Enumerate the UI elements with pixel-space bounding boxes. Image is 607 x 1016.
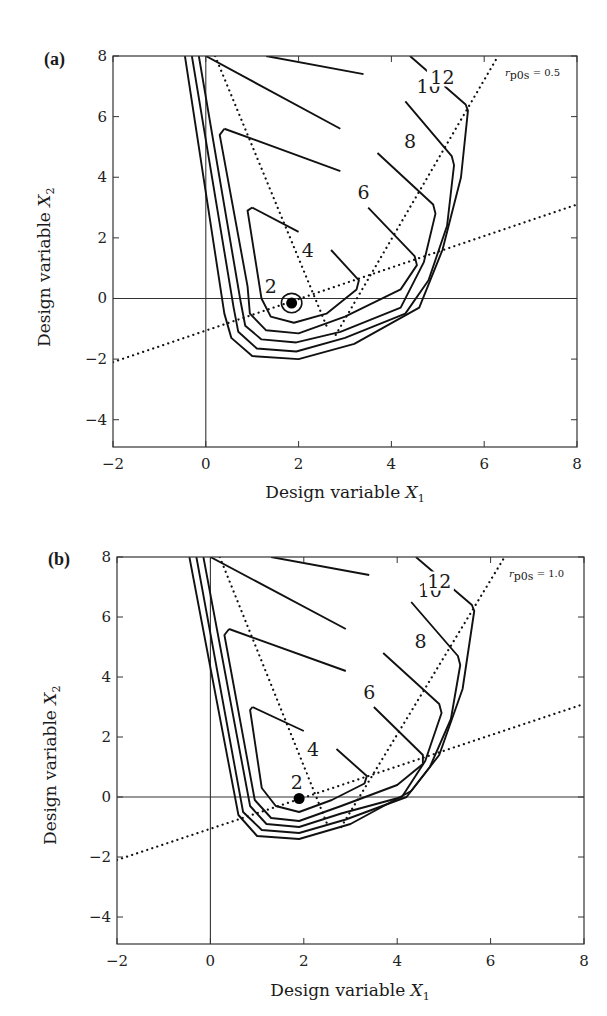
y-tick-label: 8: [101, 550, 111, 565]
contour-level-label: 8: [412, 632, 430, 651]
parameter-annotation: rp0s = 1.0: [509, 568, 564, 583]
y-tick-label: 2: [101, 730, 111, 745]
x-tick-label: 8: [579, 954, 589, 969]
contour-level-label: 12: [424, 572, 454, 591]
y-tick-label: −2: [89, 850, 111, 865]
sloped-constraint-dotted-line: [117, 704, 584, 860]
contour-line: [224, 629, 422, 821]
y-tick-label: 0: [101, 790, 111, 805]
contour-line: [271, 557, 369, 575]
contour-line: [252, 707, 303, 731]
x-tick-label: 2: [299, 954, 309, 969]
y-tick-label: 4: [101, 670, 111, 685]
y-tick-label: 6: [101, 610, 111, 625]
contour-level-label: 2: [288, 773, 306, 792]
x-tick-label: 0: [206, 954, 216, 969]
contour-line: [229, 629, 346, 671]
x-tick-label: −2: [106, 954, 128, 969]
y-tick-label: −4: [89, 910, 111, 925]
contour-level-label: 4: [304, 740, 322, 759]
plot-frame: [117, 557, 584, 944]
contour-level-label: 6: [360, 683, 378, 702]
y-axis-label: Design variable X2: [40, 686, 63, 845]
diagonal-constraint-dotted-line: [220, 557, 327, 824]
x-tick-label: 6: [486, 954, 496, 969]
optimum-point-marker: [294, 793, 305, 804]
chart-panel-b: (b) −202468−4−202468 24681012 rp0s = 1.0…: [0, 0, 607, 1016]
x-tick-label: 4: [392, 954, 402, 969]
x-axis-label: Design variable X1: [270, 980, 429, 1003]
